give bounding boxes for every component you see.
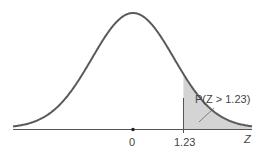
- tick-label-1-23: 1.23: [174, 136, 195, 148]
- tick-label-zero: 0: [129, 136, 135, 148]
- mean-point: [131, 128, 135, 132]
- density-curve: [13, 13, 252, 126]
- probability-annotation: P(Z > 1.23): [195, 93, 250, 105]
- axis-label-z: Z: [244, 133, 251, 145]
